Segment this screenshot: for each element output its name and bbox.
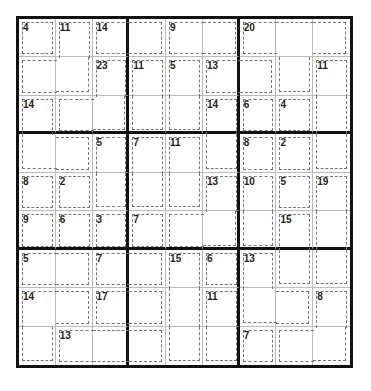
cage-sum: 14 <box>23 100 34 110</box>
cell-r2c1[interactable] <box>56 96 93 134</box>
cell-r4c3[interactable] <box>129 173 166 211</box>
cage-sum: 11 <box>133 61 144 71</box>
cell-r2c4[interactable] <box>166 96 203 134</box>
cage-sum: 8 <box>317 292 323 302</box>
cell-r0c8[interactable] <box>313 19 350 57</box>
cell-r7c3[interactable] <box>129 288 166 326</box>
cage-sum: 15 <box>170 254 181 264</box>
cage-sum: 9 <box>170 23 176 33</box>
cage-sum: 13 <box>207 177 218 187</box>
cage-sum: 13 <box>207 61 218 71</box>
cage-sum: 23 <box>97 61 108 71</box>
cage-sum: 20 <box>244 23 255 33</box>
cage-sum: 7 <box>133 215 139 225</box>
cell-r7c4[interactable] <box>166 288 203 326</box>
cage-sum: 5 <box>280 177 286 187</box>
cell-r2c8[interactable] <box>313 96 350 134</box>
cell-r5c6[interactable] <box>240 211 277 249</box>
cell-r0c3[interactable] <box>129 19 166 57</box>
cell-r3c0[interactable] <box>19 134 56 172</box>
cage-sum: 14 <box>23 292 34 302</box>
cell-r1c1[interactable] <box>56 57 93 95</box>
cage-sum: 14 <box>97 23 108 33</box>
cage-sum: 10 <box>244 177 255 187</box>
cell-r8c0[interactable] <box>19 327 56 365</box>
cell-r2c2[interactable] <box>93 96 130 134</box>
cage-sum: 5 <box>23 254 29 264</box>
cage-sum: 9 <box>23 215 29 225</box>
cage-sum: 11 <box>60 23 71 33</box>
cell-r4c4[interactable] <box>166 173 203 211</box>
cell-r8c7[interactable] <box>276 327 313 365</box>
cage-sum: 13 <box>60 331 71 341</box>
cell-r8c5[interactable] <box>203 327 240 365</box>
cage-sum: 5 <box>170 61 176 71</box>
cell-r5c5[interactable] <box>203 211 240 249</box>
cage-sum: 7 <box>97 254 103 264</box>
cell-r1c0[interactable] <box>19 57 56 95</box>
cage-sum: 17 <box>97 292 108 302</box>
cage-sum: 11 <box>317 61 328 71</box>
cage-sum: 4 <box>23 23 29 33</box>
cell-r1c7[interactable] <box>276 57 313 95</box>
cage-sum: 19 <box>317 177 328 187</box>
cage-sum: 11 <box>207 292 218 302</box>
cage-sum: 14 <box>207 100 218 110</box>
cage-sum: 3 <box>97 215 103 225</box>
cage-sum: 15 <box>280 215 291 225</box>
cell-r0c7[interactable] <box>276 19 313 57</box>
cage-sum: 5 <box>97 138 103 148</box>
cell-r2c3[interactable] <box>129 96 166 134</box>
cell-r6c3[interactable] <box>129 250 166 288</box>
cell-r6c1[interactable] <box>56 250 93 288</box>
cage-sum: 13 <box>244 254 255 264</box>
cell-r3c8[interactable] <box>313 134 350 172</box>
cell-r7c6[interactable] <box>240 288 277 326</box>
cage-sum: 4 <box>280 100 286 110</box>
cell-r8c4[interactable] <box>166 327 203 365</box>
cell-r6c8[interactable] <box>313 250 350 288</box>
cage-sum: 6 <box>60 215 66 225</box>
cage-sum: 8 <box>244 138 250 148</box>
cell-r7c1[interactable] <box>56 288 93 326</box>
killer-sudoku-board: 4111492023115131114146457118282131051996… <box>16 16 353 368</box>
cell-r8c2[interactable] <box>93 327 130 365</box>
cell-r5c8[interactable] <box>313 211 350 249</box>
cell-r0c5[interactable] <box>203 19 240 57</box>
cage-sum: 7 <box>133 138 139 148</box>
cage-sum: 7 <box>244 331 250 341</box>
cell-r8c8[interactable] <box>313 327 350 365</box>
cell-r8c3[interactable] <box>129 327 166 365</box>
cell-r4c2[interactable] <box>93 173 130 211</box>
cell-r7c7[interactable] <box>276 288 313 326</box>
cell-r3c1[interactable] <box>56 134 93 172</box>
cage-sum: 6 <box>207 254 213 264</box>
cell-r6c7[interactable] <box>276 250 313 288</box>
cell-r1c6[interactable] <box>240 57 277 95</box>
cage-sum: 11 <box>170 138 181 148</box>
cell-r5c4[interactable] <box>166 211 203 249</box>
cage-sum: 2 <box>60 177 66 187</box>
cage-sum: 8 <box>23 177 29 187</box>
cell-r3c5[interactable] <box>203 134 240 172</box>
cage-sum: 2 <box>280 138 286 148</box>
cage-sum: 6 <box>244 100 250 110</box>
